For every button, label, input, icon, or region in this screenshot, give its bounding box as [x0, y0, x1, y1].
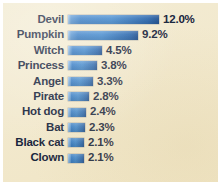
category-label: Devil [3, 14, 68, 26]
category-label: Princess [3, 60, 68, 72]
chart-panel: Devil12.0%Pumpkin9.2%Witch4.5%Princess3.… [3, 3, 218, 182]
value-label: 2.8% [89, 91, 118, 103]
value-label: 2.4% [86, 106, 115, 118]
bar-and-value: 2.3% [68, 120, 218, 135]
bar-and-value: 2.8% [68, 89, 218, 104]
bar-and-value: 2.1% [68, 151, 218, 166]
value-label: 9.2% [138, 29, 167, 41]
bar-and-value: 2.4% [68, 104, 218, 119]
bar-row: Bat2.3% [3, 120, 218, 135]
bar-row: Princess3.8% [3, 58, 218, 73]
bar-row: Pirate2.8% [3, 89, 218, 104]
category-label: Bat [3, 122, 68, 134]
value-label: 4.5% [102, 45, 131, 57]
category-label: Clown [3, 152, 68, 164]
bar [68, 92, 89, 101]
bar-and-value: 3.8% [68, 58, 218, 73]
bar [68, 108, 86, 117]
category-label: Pumpkin [3, 29, 68, 41]
bar [68, 31, 138, 40]
bar-row: Witch4.5% [3, 43, 218, 58]
bar [68, 15, 159, 24]
bar [68, 123, 85, 132]
bar-and-value: 3.3% [68, 74, 218, 89]
bar [68, 77, 93, 86]
category-label: Pirate [3, 91, 68, 103]
bar-and-value: 12.0% [68, 12, 218, 27]
bar-row: Devil12.0% [3, 12, 218, 27]
horizontal-bar-chart: Devil12.0%Pumpkin9.2%Witch4.5%Princess3.… [0, 0, 223, 193]
value-label: 2.1% [84, 137, 113, 149]
value-label: 2.3% [85, 122, 114, 134]
value-label: 12.0% [159, 14, 195, 26]
bar-and-value: 2.1% [68, 135, 218, 150]
bar-row: Black cat2.1% [3, 135, 218, 150]
category-label: Angel [3, 76, 68, 88]
category-label: Hot dog [3, 106, 68, 118]
category-label: Black cat [3, 137, 68, 149]
value-label: 2.1% [84, 152, 113, 164]
bar-row: Clown2.1% [3, 151, 218, 166]
bar [68, 61, 97, 70]
value-label: 3.3% [93, 76, 122, 88]
bar-row: Angel3.3% [3, 74, 218, 89]
bar [68, 138, 84, 147]
value-label: 3.8% [97, 60, 126, 72]
bar-rows-container: Devil12.0%Pumpkin9.2%Witch4.5%Princess3.… [3, 12, 218, 166]
category-label: Witch [3, 45, 68, 57]
bar-row: Pumpkin9.2% [3, 27, 218, 42]
bar-row: Hot dog2.4% [3, 104, 218, 119]
bar [68, 154, 84, 163]
bar-and-value: 9.2% [68, 27, 218, 42]
bar-and-value: 4.5% [68, 43, 218, 58]
bar [68, 46, 102, 55]
